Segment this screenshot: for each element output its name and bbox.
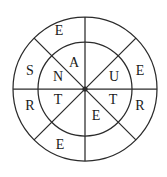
inner-letter-s-se: E	[92, 108, 101, 123]
inner-letter-n-nw: A	[69, 55, 80, 70]
inner-letter-e-se: T	[109, 92, 118, 107]
word-wheel-svg: E S E R R E A N U T T E	[0, 0, 167, 177]
outer-letter-e-ne: E	[136, 63, 145, 78]
inner-letter-w-nw: N	[53, 69, 63, 84]
word-wheel-figure: E S E R R E A N U T T E	[0, 0, 167, 177]
inner-letter-w-sw: T	[54, 92, 63, 107]
outer-letter-w-sw: R	[25, 98, 35, 113]
inner-letter-e-ne: U	[109, 69, 119, 84]
center-hub	[82, 86, 87, 91]
outer-letter-s-sw: E	[56, 137, 65, 152]
outer-letter-w-nw: S	[26, 63, 34, 78]
outer-letter-e-se: R	[135, 98, 145, 113]
outer-letter-n-nw: E	[55, 23, 64, 38]
